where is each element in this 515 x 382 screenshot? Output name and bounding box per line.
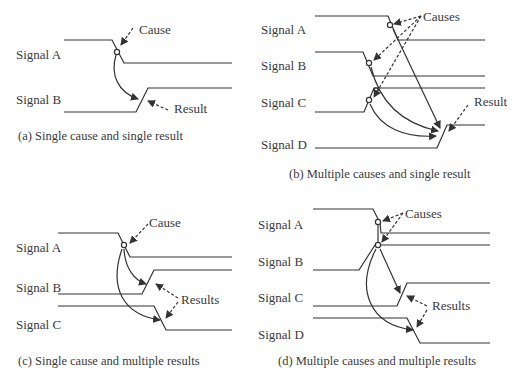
panel-b-signal-b-label: Signal B	[261, 59, 306, 72]
panel-d-signal-d-label: Signal D	[258, 328, 304, 341]
panel-a-result-pointer	[148, 101, 168, 110]
panel-a-signal-a-label: Signal A	[16, 48, 61, 61]
panel-d-caption: (d) Multiple causes and multiple results	[278, 355, 476, 368]
panel-c-cause-label: Cause	[149, 216, 181, 229]
panel-b-signal-c-label: Signal C	[261, 96, 306, 109]
panel-c-signal-c-label: Signal C	[16, 318, 61, 331]
panel-b-signal-d-label: Signal D	[261, 138, 307, 151]
panel-d-causes-label: Causes	[405, 207, 442, 220]
panel-a-cause-pointer	[121, 28, 133, 45]
timing-diagram-canvas	[0, 0, 515, 382]
panel-b-result-label: Result	[474, 95, 507, 108]
panel-d-signal-a-label: Signal A	[258, 218, 303, 231]
panel-b-signal-a-label: Signal A	[261, 23, 306, 36]
panel-b-causes-label: Causes	[423, 10, 460, 23]
panel-c-caption: (c) Single cause and multiple results	[18, 355, 200, 368]
panel-a-causality-arrow	[114, 55, 138, 99]
panel-b-caption: (b) Multiple causes and single result	[289, 168, 471, 181]
panel-d-signal-c-label: Signal C	[258, 291, 303, 304]
panel-c-signal-a-label: Signal A	[16, 241, 61, 254]
panel-b-waveforms	[315, 16, 485, 148]
panel-c-results-label: Results	[181, 293, 219, 306]
panel-a-cause-node	[114, 49, 119, 54]
panel-d-results-label: Results	[432, 299, 470, 312]
panel-c-waveforms	[58, 233, 232, 330]
panel-d-signal-b-label: Signal B	[258, 255, 303, 268]
panel-c-signal-b-label: Signal B	[16, 281, 61, 294]
panel-a-signal-b-label: Signal B	[16, 93, 61, 106]
panel-a-result-label: Result	[174, 102, 207, 115]
panel-a-cause-label: Cause	[139, 23, 171, 36]
panel-d-waveforms	[313, 209, 490, 343]
panel-a-caption: (a) Single cause and single result	[18, 130, 183, 143]
